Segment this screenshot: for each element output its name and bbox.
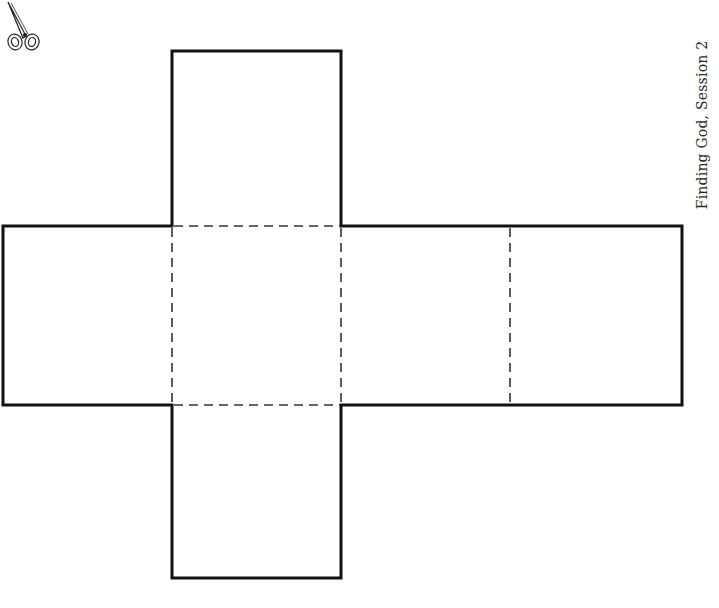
scissors-icon bbox=[0, 0, 44, 52]
printable-sheet: Finding God, Session 2 bbox=[0, 0, 719, 608]
session-label: Finding God, Session 2 bbox=[684, 0, 719, 250]
fold-lines bbox=[172, 226, 510, 405]
cut-outline bbox=[3, 51, 682, 578]
cube-net-diagram bbox=[0, 0, 719, 608]
session-label-text: Finding God, Session 2 bbox=[694, 41, 710, 209]
